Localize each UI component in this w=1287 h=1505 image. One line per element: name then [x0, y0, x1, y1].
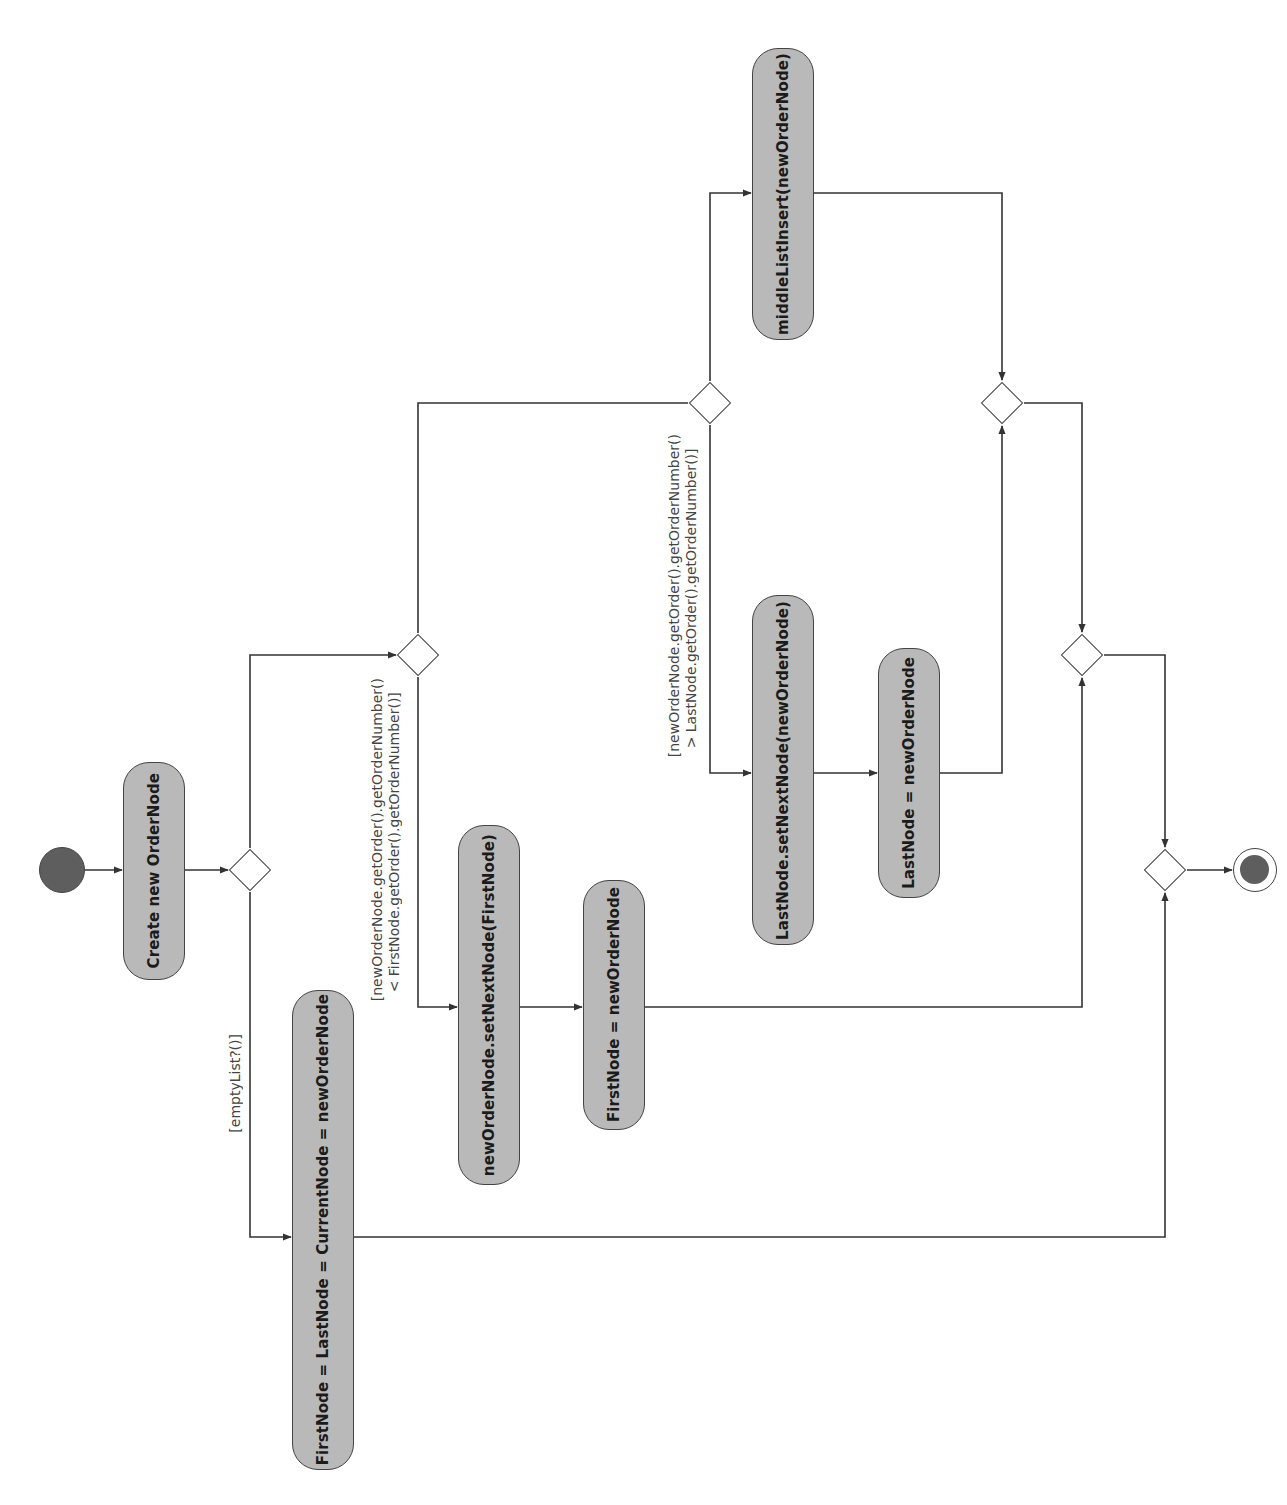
action-label: FirstNode = newOrderNode — [605, 887, 623, 1122]
connector-layer — [0, 0, 1287, 1505]
action-label: LastNode = newOrderNode — [900, 657, 918, 889]
action-label: middleListInsert(newOrderNode) — [774, 53, 792, 335]
action-label: Create new OrderNode — [145, 773, 163, 968]
edge-middle-merge — [813, 193, 1002, 380]
edge-assignlast-merge — [939, 426, 1002, 773]
action-label: FirstNode = LastNode = CurrentNode = new… — [314, 994, 332, 1465]
edge-empty-list — [250, 892, 291, 1237]
action-label: newOrderNode.setNextNode(FirstNode) — [480, 834, 498, 1176]
action-assign-last[interactable]: LastNode = newOrderNode — [878, 648, 940, 898]
initial-node — [39, 847, 85, 893]
edge-less-than-first — [418, 677, 457, 1007]
action-label: LastNode.setNextNode(newOrderNode) — [774, 601, 792, 940]
edge-greater-than-last — [710, 425, 751, 773]
edge-middle-insert — [710, 193, 751, 381]
action-create-new-ordernode[interactable]: Create new OrderNode — [123, 762, 185, 980]
edge-merge-last-to-merge-first — [1024, 403, 1082, 632]
action-init-empty-list[interactable]: FirstNode = LastNode = CurrentNode = new… — [292, 990, 354, 1470]
final-node — [1233, 848, 1277, 892]
final-node-core — [1240, 855, 1269, 884]
action-set-next-first[interactable]: newOrderNode.setNextNode(FirstNode) — [458, 825, 520, 1185]
action-set-next-last[interactable]: LastNode.setNextNode(newOrderNode) — [752, 595, 814, 945]
guard-less-than-first: [newOrderNode.getOrder().getOrderNumber(… — [369, 678, 403, 1001]
action-assign-first[interactable]: FirstNode = newOrderNode — [583, 880, 645, 1130]
edge-merge-first-to-merge-final — [1104, 655, 1165, 847]
guard-greater-than-last: [newOrderNode.getOrder().getOrderNumber(… — [666, 434, 700, 757]
edge-decision-first-to-decision-last — [418, 403, 688, 633]
guard-empty-list: [emptyList?()] — [227, 1034, 244, 1133]
action-middle-list-insert[interactable]: middleListInsert(newOrderNode) — [752, 48, 814, 340]
